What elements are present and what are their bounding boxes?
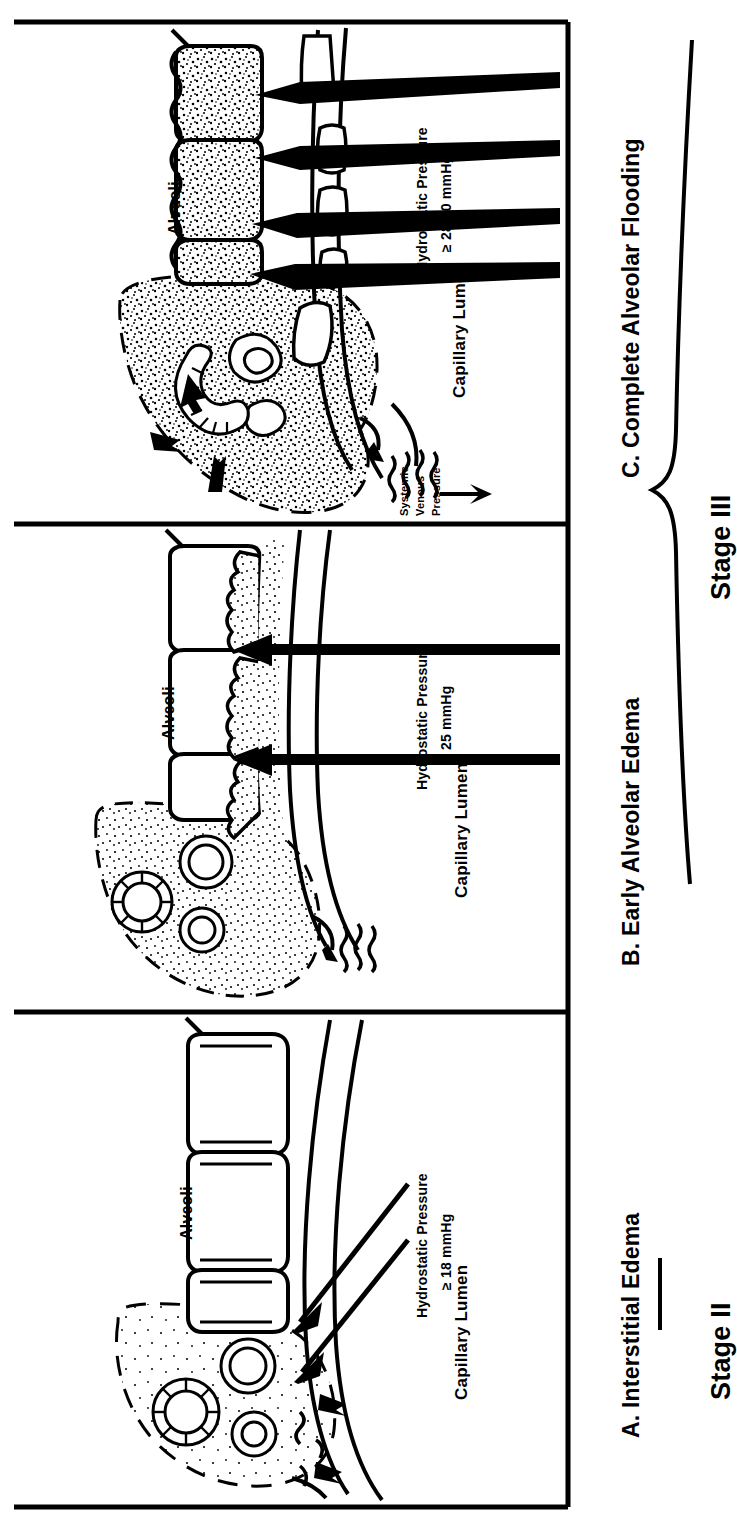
panel-a-graphic bbox=[116, 1018, 408, 1500]
panel-c-graphic bbox=[120, 28, 560, 513]
flooding-arrows-c bbox=[250, 72, 560, 290]
systemic-venous-label-line2: Venous bbox=[414, 476, 426, 516]
stage-iii-brace bbox=[652, 40, 692, 884]
hydrostatic-pressure-label-b: Hydrostatic Pressure bbox=[414, 645, 430, 790]
alveoli-group-a bbox=[188, 1034, 288, 1332]
panel-b-title: B. Early Alveolar Edema bbox=[618, 698, 645, 966]
capillary-lumen-label-b: Capillary Lumen bbox=[452, 763, 472, 898]
alveoli-label-c: Alveoli bbox=[166, 181, 184, 235]
capillary-lumen-label-c: Capillary Lumen bbox=[450, 263, 470, 398]
venous-drainage-c bbox=[360, 404, 492, 504]
systemic-venous-label-line3: Pressure bbox=[430, 467, 442, 516]
stage-brackets bbox=[652, 40, 692, 1330]
alveoli-label-b: Alveoli bbox=[160, 686, 178, 740]
interstitial-space-c bbox=[120, 275, 377, 512]
leak-arrows-b bbox=[233, 634, 560, 776]
panel-c-title: C. Complete Alveolar Flooding bbox=[618, 138, 645, 478]
panel-a-title: A. Interstitial Edema bbox=[618, 1213, 645, 1438]
stage-ii-label: Stage II bbox=[706, 1302, 737, 1400]
hydrostatic-pressure-label-c: Hydrostatic Pressure bbox=[414, 127, 430, 272]
hydrostatic-pressure-label-a: Hydrostatic Pressure bbox=[414, 1173, 430, 1318]
panel-b-graphic bbox=[96, 530, 560, 996]
capillary-lumen-label-a: Capillary Lumen bbox=[452, 1265, 472, 1400]
hydrostatic-pressure-value-b: ≥ 25 mmHg bbox=[438, 686, 454, 762]
alveoli-group-c bbox=[172, 30, 263, 284]
systemic-venous-label-line1: Systemic bbox=[398, 466, 410, 516]
hydrostatic-pressure-value-c: ≥ 28-30 mmHg bbox=[438, 155, 454, 252]
alveoli-group-b bbox=[166, 530, 260, 838]
stage-iii-label: Stage III bbox=[706, 495, 737, 600]
hydrostatic-pressure-value-a: ≥ 18 mmHg bbox=[438, 1214, 454, 1290]
alveoli-label-a: Alveoli bbox=[178, 1186, 196, 1240]
